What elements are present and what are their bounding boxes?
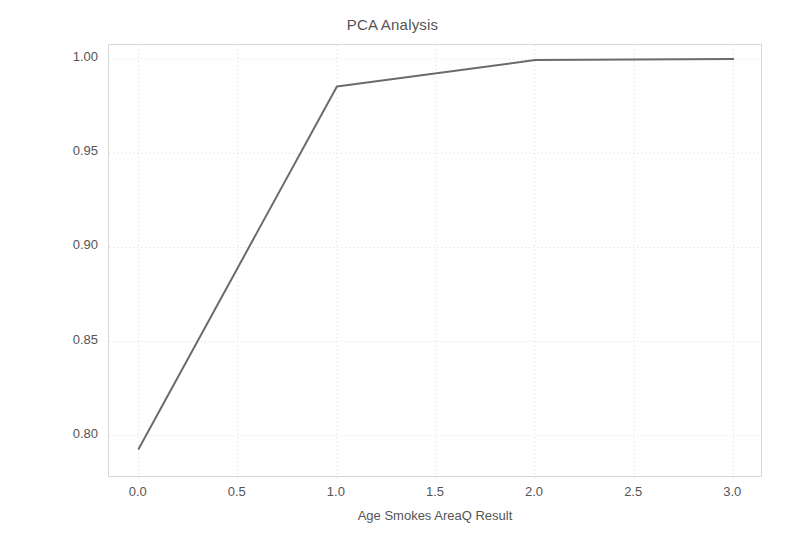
chart-title: PCA Analysis (0, 16, 785, 33)
x-tick-label: 1.0 (306, 484, 366, 499)
grid-lines-x (139, 45, 734, 478)
x-tick-label: 2.0 (504, 484, 564, 499)
y-tick-label: 0.95 (52, 143, 98, 158)
x-tick-label: 0.5 (207, 484, 267, 499)
x-tick-label: 1.5 (405, 484, 465, 499)
x-tick-label: 0.0 (108, 484, 168, 499)
plot-svg (109, 45, 763, 478)
y-tick-label: 0.85 (52, 332, 98, 347)
x-tick-label: 3.0 (702, 484, 762, 499)
x-tick-label: 2.5 (603, 484, 663, 499)
x-axis-title: Age Smokes AreaQ Result (108, 508, 762, 523)
plot-area (108, 44, 762, 477)
y-tick-label: 0.80 (52, 426, 98, 441)
grid-lines-y (109, 59, 763, 436)
y-tick-label: 0.90 (52, 237, 98, 252)
figure-canvas: PCA Analysis 0.800.850.900.951.00 0.00.5… (0, 0, 785, 560)
y-tick-label: 1.00 (52, 49, 98, 64)
